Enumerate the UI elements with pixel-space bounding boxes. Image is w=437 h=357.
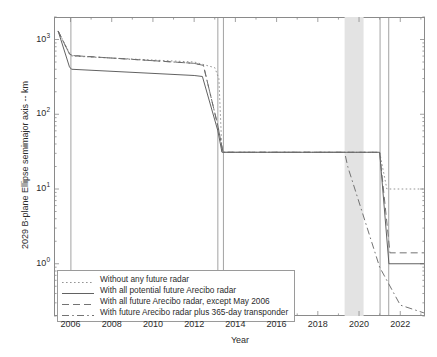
x-axis-title: Year — [231, 335, 249, 345]
legend-line-sample — [61, 296, 95, 307]
legend-line-sample — [61, 307, 95, 318]
y-tick-label: 102 — [36, 109, 50, 118]
legend-label: Without any future radar — [100, 274, 189, 285]
x-tick-label: 2012 — [184, 320, 204, 329]
x-tick-label: 2022 — [390, 320, 410, 329]
legend-line-sample — [61, 285, 95, 296]
x-tick-label: 2020 — [349, 320, 369, 329]
legend-box: Without any future radarWith all potenti… — [57, 270, 295, 322]
y-tick-label: 101 — [36, 184, 50, 193]
legend-entry: With all potential future Arecibo radar — [61, 285, 290, 296]
legend-label: With all future Arecibo radar, except Ma… — [100, 296, 270, 307]
legend-line-sample — [61, 274, 95, 285]
y-tick-label: 100 — [36, 259, 50, 268]
x-tick-label: 2006 — [60, 320, 80, 329]
y-axis-title: 2029 B-plane Ellipse semimajor axis -- k… — [20, 55, 30, 275]
legend-entry: With all future Arecibo radar, except Ma… — [61, 296, 290, 307]
legend-entry: With future Arecibo radar plus 365-day t… — [61, 307, 290, 318]
x-tick-label: 2010 — [143, 320, 163, 329]
x-tick-label: 2018 — [308, 320, 328, 329]
y-tick-label: 103 — [36, 35, 50, 44]
legend-label: With future Arecibo radar plus 365-day t… — [100, 307, 288, 318]
legend-label: With all potential future Arecibo radar — [100, 285, 236, 296]
x-tick-label: 2016 — [267, 320, 287, 329]
figure-canvas: 100101102103 Year 2029 B-plane Ellipse s… — [0, 0, 437, 357]
legend-entry: Without any future radar — [61, 274, 290, 285]
x-tick-label: 2014 — [225, 320, 245, 329]
x-tick-label: 2008 — [102, 320, 122, 329]
